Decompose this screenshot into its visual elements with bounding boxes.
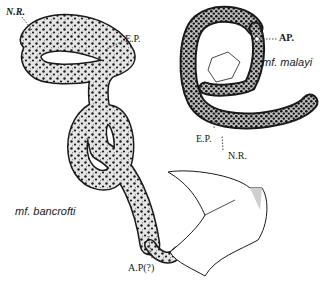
malayi-species-label: mf. malayi <box>262 56 312 68</box>
bancrofti-species-label: mf. bancrofti <box>15 205 76 217</box>
sheath-fragment <box>168 171 267 276</box>
malayi-excretory-pore-label: E.P. <box>196 133 212 144</box>
bancrofti-worm <box>30 24 178 257</box>
malayi-nerve-ring-label: N.R. <box>228 150 247 161</box>
malayi-anal-pore-label: AP. <box>279 32 294 43</box>
bancrofti-excretory-pore-label: E.P. <box>125 33 141 44</box>
bancrofti-nerve-ring-label: N.R. <box>6 6 25 17</box>
bancrofti-anal-pore-label: A.P(?) <box>128 262 154 273</box>
